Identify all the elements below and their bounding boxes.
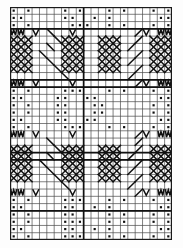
dot-symbol [20,228,22,230]
dot-symbol [13,24,15,26]
dot-symbol [79,90,81,92]
dot-symbol [94,104,96,106]
dot-symbol [64,111,66,113]
dot-symbol [153,199,155,201]
dot-symbol [13,17,15,19]
dot-symbol [153,213,155,215]
dot-symbol [123,10,125,12]
dot-symbol [13,126,15,128]
dot-symbol [13,111,15,113]
dot-symbol [108,10,110,12]
dot-symbol [64,235,66,237]
dot-symbol [167,10,169,12]
dot-symbol [72,206,74,208]
dot-symbol [167,199,169,201]
dot-symbol [153,90,155,92]
dot-symbol [123,126,125,128]
dot-symbol [94,206,96,208]
dot-symbol [86,24,88,26]
dot-symbol [94,111,96,113]
pattern-grid-svg [10,7,172,240]
dot-symbol [101,104,103,106]
dot-symbol [79,126,81,128]
dot-symbol [86,119,88,121]
dot-symbol [13,235,15,237]
dot-symbol [72,199,74,201]
dot-symbol [72,228,74,230]
dot-symbol [167,228,169,230]
dot-symbol [79,221,81,223]
dot-symbol [123,24,125,26]
dot-symbol [72,17,74,19]
dot-symbol [108,24,110,26]
dot-symbol [20,17,22,19]
dot-symbol [167,213,169,215]
dot-symbol [153,126,155,128]
dot-symbol [153,111,155,113]
dot-symbol [64,199,66,201]
dot-symbol [153,10,155,12]
dot-symbol [79,24,81,26]
dot-symbol [108,126,110,128]
dot-symbol [108,213,110,215]
dot-symbol [13,206,15,208]
dot-symbol [123,199,125,201]
dot-symbol [57,104,59,106]
dot-symbol [167,221,169,223]
dot-symbol [27,213,29,215]
dot-symbol [27,235,29,237]
dot-symbol [13,90,15,92]
dot-symbol [64,206,66,208]
dot-symbol [13,97,15,99]
dot-symbol [27,111,29,113]
dot-symbol [94,228,96,230]
dot-symbol [13,228,15,230]
dot-symbol [160,17,162,19]
dot-symbol [167,206,169,208]
dot-symbol [27,221,29,223]
dot-symbol [57,119,59,121]
dot-symbol [64,228,66,230]
dot-symbol [123,90,125,92]
dot-symbol [64,97,66,99]
dot-symbol [27,126,29,128]
dot-symbol [79,235,81,237]
dot-symbol [13,104,15,106]
dot-symbol [72,126,74,128]
dot-symbol [64,213,66,215]
dot-symbol [20,97,22,99]
dot-symbol [20,206,22,208]
dot-symbol [20,119,22,121]
dot-symbol [72,24,74,26]
dot-symbol [160,228,162,230]
dot-symbol [101,111,103,113]
dot-symbol [64,119,66,121]
dot-symbol [108,235,110,237]
dot-symbol [108,199,110,201]
dot-symbol [27,10,29,12]
dot-symbol [167,111,169,113]
dot-symbol [27,90,29,92]
dot-symbol [72,221,74,223]
dot-symbol [167,235,169,237]
dot-symbol [64,90,66,92]
dot-symbol [167,126,169,128]
dot-symbol [167,24,169,26]
dot-symbol [86,97,88,99]
dot-symbol [72,235,74,237]
dot-symbol [57,97,59,99]
pattern-chart-root [0,0,183,248]
dot-symbol [167,90,169,92]
dot-symbol [108,221,110,223]
dot-symbol [153,104,155,106]
dot-symbol [13,221,15,223]
dot-symbol [167,104,169,106]
dot-symbol [94,119,96,121]
dot-symbol [64,126,66,128]
dot-symbol [108,228,110,230]
dot-symbol [79,199,81,201]
dot-symbol [27,199,29,201]
dot-symbol [160,119,162,121]
dot-symbol [94,97,96,99]
dot-symbol [57,111,59,113]
